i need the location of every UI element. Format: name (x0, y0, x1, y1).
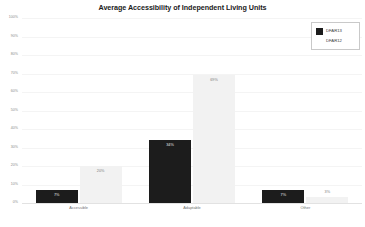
legend-label: DFAR12 (326, 39, 342, 43)
legend-swatch-icon (316, 38, 323, 45)
gridline (22, 185, 362, 186)
gridline (22, 203, 362, 204)
y-axis-tick-label: 70% (0, 72, 18, 76)
y-axis-tick-label: 20% (0, 164, 18, 168)
bar[interactable]: 34% (149, 140, 191, 203)
legend-swatch-icon (316, 28, 323, 35)
bar-chart: Average Accessibility of Independent Liv… (0, 0, 365, 227)
chart-title: Average Accessibility of Independent Liv… (0, 3, 365, 12)
gridline (22, 129, 362, 130)
y-axis-tick-label: 30% (0, 146, 18, 150)
y-axis-tick-label: 60% (0, 90, 18, 94)
y-axis-tick-label: 40% (0, 127, 18, 131)
legend-item[interactable]: DFAR12 (316, 36, 356, 46)
legend-item[interactable]: DFAR13 (316, 26, 356, 36)
x-axis-category-label: Other (249, 206, 362, 210)
y-axis-tick-label: 10% (0, 183, 18, 187)
bar-value-label: 3% (306, 191, 348, 195)
bar-value-label: 7% (36, 194, 78, 198)
gridline (22, 111, 362, 112)
gridline (22, 148, 362, 149)
bar-value-label: 7% (262, 194, 304, 198)
gridline (22, 55, 362, 56)
bar[interactable]: 7% (262, 190, 304, 203)
gridline (22, 166, 362, 167)
x-axis-category-label: Adaptable (135, 206, 248, 210)
bar[interactable]: 7% (36, 190, 78, 203)
bar[interactable]: 3% (306, 197, 348, 203)
bar-value-label: 69% (193, 79, 235, 83)
gridline (22, 74, 362, 75)
x-axis-category-label: Accessible (22, 206, 135, 210)
bar-value-label: 34% (149, 144, 191, 148)
y-axis-tick-label: 90% (0, 35, 18, 39)
bar-value-label: 20% (80, 170, 122, 174)
y-axis-tick-label: 100% (0, 16, 18, 20)
bar[interactable]: 69% (193, 75, 235, 203)
gridline (22, 92, 362, 93)
gridline (22, 18, 362, 19)
y-axis-tick-label: 50% (0, 109, 18, 113)
legend-label: DFAR13 (326, 29, 342, 33)
y-axis-tick-label: 0% (0, 201, 18, 205)
chart-legend: DFAR13 DFAR12 (311, 22, 360, 50)
bar[interactable]: 20% (80, 166, 122, 203)
y-axis-tick-label: 80% (0, 53, 18, 57)
